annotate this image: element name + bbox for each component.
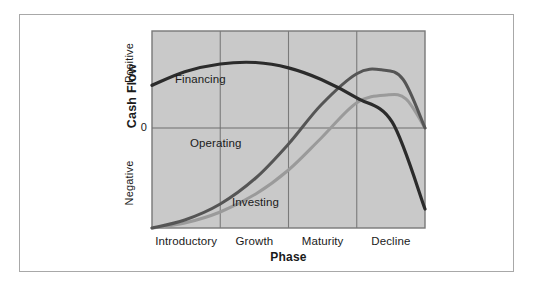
x-tick-label-maturity: Maturity [289, 235, 357, 247]
series-label-operating: Operating [190, 137, 241, 149]
y-tick-label-negative: Negative [123, 151, 135, 215]
series-label-financing: Financing [175, 73, 226, 85]
y-tick-label-zero: 0 [133, 121, 147, 133]
x-tick-label-introductory: Introductory [152, 235, 220, 247]
y-tick-label-positive: Positive [123, 33, 135, 93]
chart-stage: Cash Flow Positive 0 Negative Introducto… [0, 0, 534, 288]
x-tick-label-decline: Decline [357, 235, 425, 247]
x-axis-title: Phase [152, 250, 425, 264]
series-label-investing: Investing [232, 196, 279, 208]
x-tick-label-growth: Growth [220, 235, 288, 247]
